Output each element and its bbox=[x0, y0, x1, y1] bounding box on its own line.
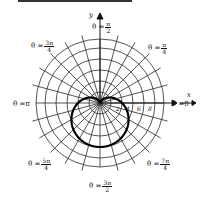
angle-label-text: θ = bbox=[89, 183, 101, 190]
radial-tick-6: 6 bbox=[137, 105, 141, 112]
angle-label-5pi-4: θ = 5π4 bbox=[28, 158, 51, 171]
fraction: 3π2 bbox=[102, 180, 112, 193]
denominator: 4 bbox=[162, 165, 168, 171]
denominator: 2 bbox=[104, 187, 110, 193]
y-arrowhead bbox=[97, 13, 103, 19]
angle-label-text: θ = bbox=[172, 101, 184, 108]
grid-spoke bbox=[100, 35, 118, 103]
fraction: 7π4 bbox=[160, 158, 170, 171]
angle-label-7pi-4: θ = 7π4 bbox=[147, 158, 170, 171]
grid-spoke bbox=[82, 35, 100, 103]
angle-label-3pi-2: θ = 3π2 bbox=[89, 180, 112, 193]
denominator: 4 bbox=[46, 47, 52, 53]
denominator: 4 bbox=[161, 49, 167, 55]
x-axis-label: x bbox=[187, 91, 191, 99]
radial-tick-4: 4 bbox=[126, 105, 130, 112]
angle-label-pi-2: θ = π2 bbox=[92, 21, 111, 34]
angle-label-text: θ = bbox=[147, 161, 159, 168]
grid-spoke bbox=[82, 103, 100, 171]
radial-tick-2: 2 bbox=[116, 105, 120, 112]
angle-label-pi: θ = π bbox=[13, 101, 30, 108]
denominator: 4 bbox=[43, 165, 49, 171]
angle-label-pi-4: θ = π4 bbox=[148, 42, 167, 55]
radial-tick-8: 8 bbox=[148, 105, 152, 112]
grid-spoke bbox=[100, 85, 168, 103]
angle-label-0: θ = 0 bbox=[172, 101, 189, 108]
fraction: π4 bbox=[161, 42, 167, 55]
angle-label-value: 0 bbox=[184, 101, 188, 108]
fraction: 3π4 bbox=[44, 40, 54, 53]
angle-label-text: θ = bbox=[148, 45, 160, 52]
grid-spoke bbox=[100, 103, 118, 171]
x-arrowhead-right bbox=[192, 101, 196, 106]
angle-label-text: θ = bbox=[13, 101, 25, 108]
grid-spoke bbox=[100, 103, 168, 121]
angle-label-text: θ = bbox=[92, 24, 104, 31]
angle-label-text: θ = bbox=[31, 43, 43, 50]
fraction: π2 bbox=[105, 21, 111, 34]
y-axis-label: y bbox=[89, 11, 93, 19]
grid-spoke bbox=[32, 85, 100, 103]
grid-spoke bbox=[32, 103, 100, 121]
denominator: 2 bbox=[105, 28, 111, 34]
angle-label-value: π bbox=[25, 101, 30, 108]
fraction: 5π4 bbox=[41, 158, 51, 171]
angle-label-3pi-4: θ = 3π4 bbox=[31, 40, 54, 53]
angle-label-text: θ = bbox=[28, 161, 40, 168]
